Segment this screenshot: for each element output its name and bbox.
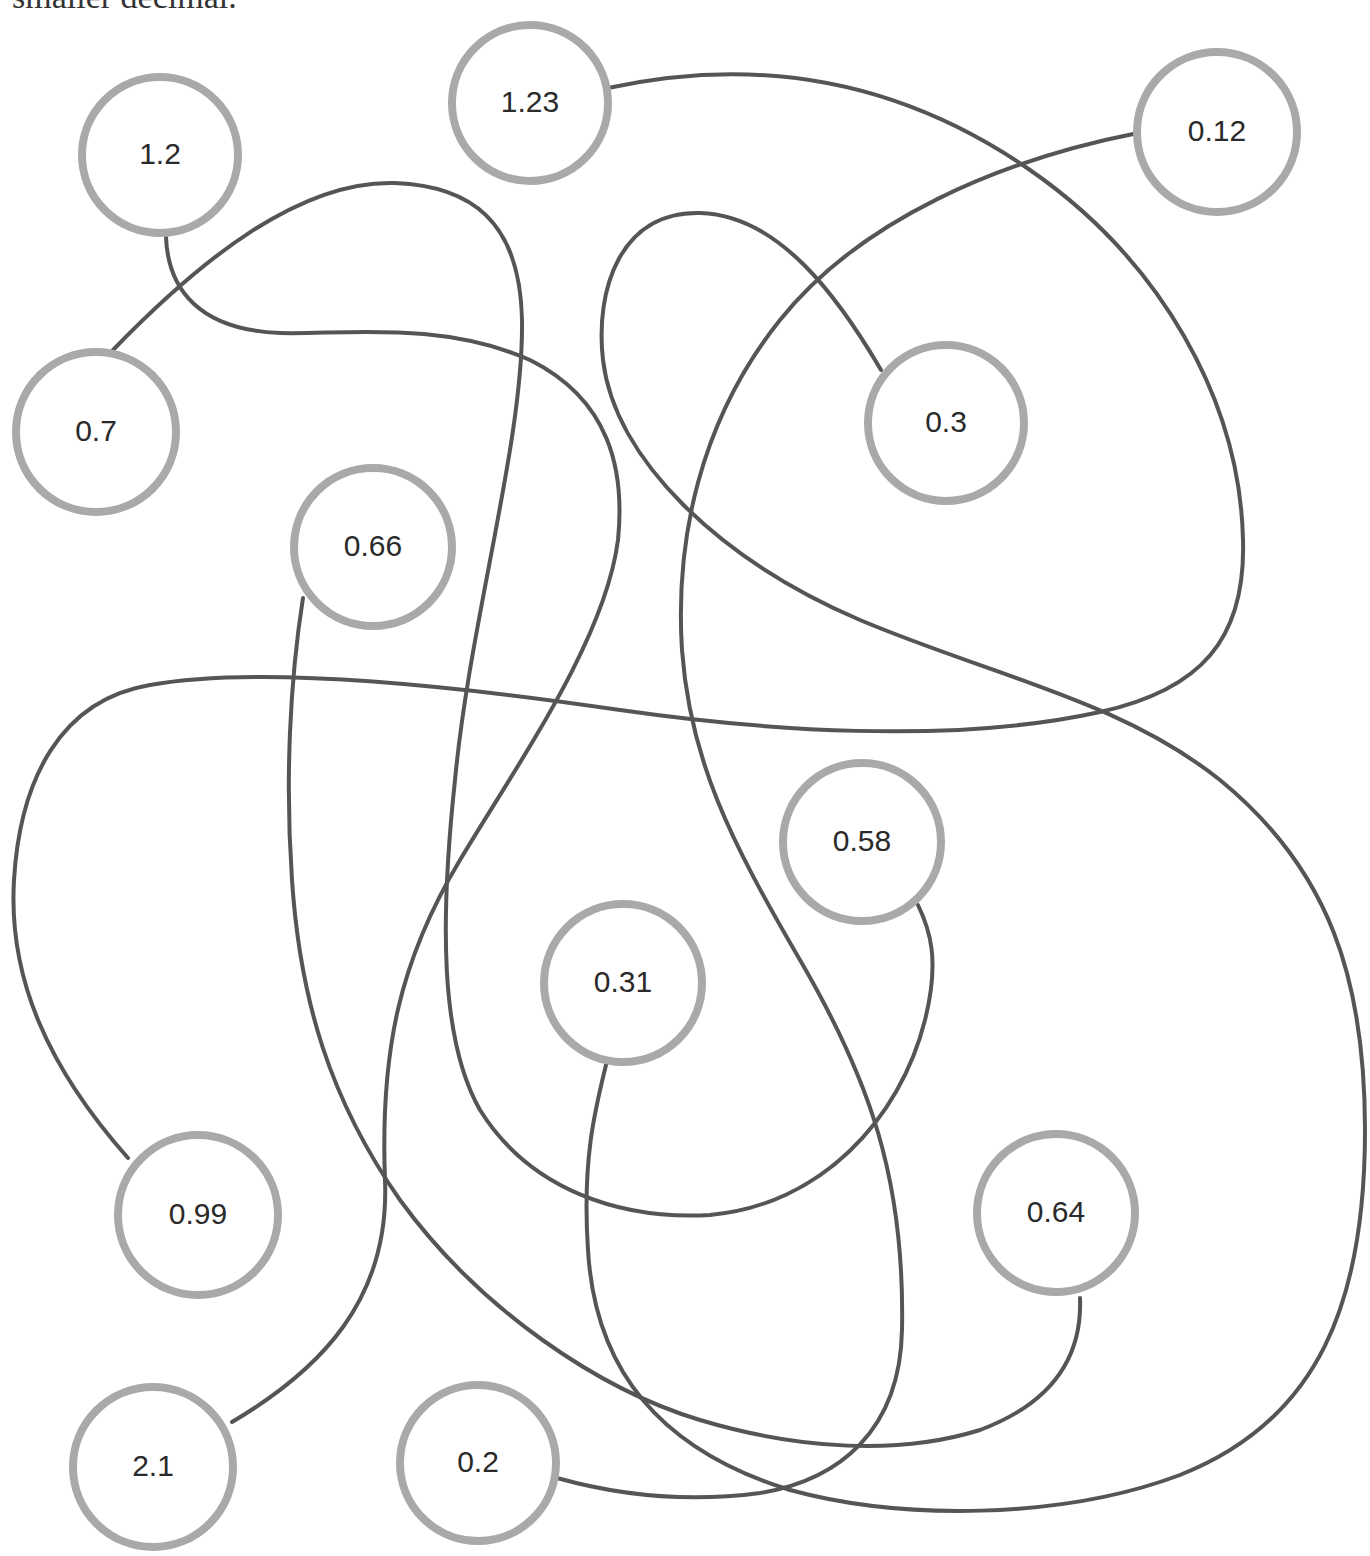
decimal-node[interactable]: 2.1 xyxy=(73,1387,233,1547)
node-label: 0.99 xyxy=(169,1197,227,1230)
node-label: 0.2 xyxy=(457,1445,499,1478)
decimal-node[interactable]: 0.58 xyxy=(783,763,941,921)
decimal-node[interactable]: 0.64 xyxy=(977,1134,1135,1292)
decimal-node[interactable]: 0.3 xyxy=(868,345,1024,501)
decimal-node[interactable]: 0.31 xyxy=(544,904,702,1062)
node-label: 0.66 xyxy=(344,529,402,562)
node-label: 0.12 xyxy=(1188,114,1246,147)
node-label: 0.64 xyxy=(1027,1195,1085,1228)
decimal-node[interactable]: 0.7 xyxy=(16,352,176,512)
decimal-node[interactable]: 0.99 xyxy=(118,1135,278,1295)
matching-diagram: 1.21.230.120.70.30.660.580.310.990.642.1… xyxy=(0,0,1370,1556)
node-label: 0.31 xyxy=(594,965,652,998)
decimal-node[interactable]: 0.66 xyxy=(294,468,452,626)
node-label: 0.58 xyxy=(833,824,891,857)
decimal-node[interactable]: 0.12 xyxy=(1137,52,1297,212)
decimal-nodes: 1.21.230.120.70.30.660.580.310.990.642.1… xyxy=(16,25,1297,1547)
node-label: 1.23 xyxy=(501,85,559,118)
node-label: 0.7 xyxy=(75,414,117,447)
decimal-node[interactable]: 1.23 xyxy=(452,25,608,181)
node-label: 2.1 xyxy=(132,1449,174,1482)
decimal-node[interactable]: 0.2 xyxy=(400,1385,556,1541)
connection-line[interactable] xyxy=(113,183,933,1216)
decimal-node[interactable]: 1.2 xyxy=(82,77,238,233)
node-label: 0.3 xyxy=(925,405,967,438)
node-label: 1.2 xyxy=(139,137,181,170)
